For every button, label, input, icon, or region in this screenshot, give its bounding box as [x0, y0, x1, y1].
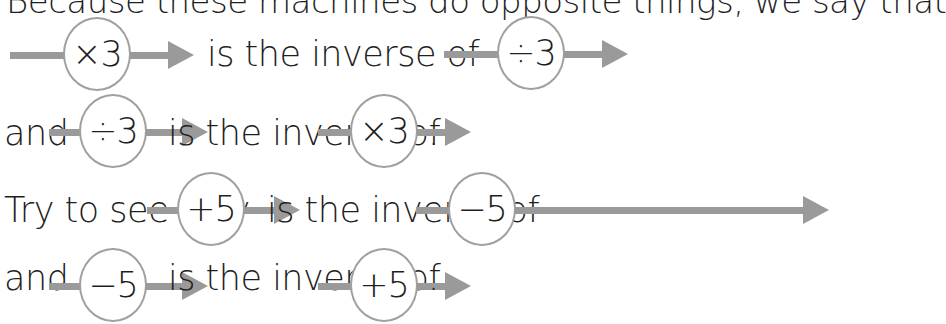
output-wire [564, 51, 604, 58]
input-wire [416, 207, 450, 214]
output-wire [130, 52, 170, 59]
input-wire [147, 207, 179, 214]
input-wire [49, 283, 81, 290]
machine-circle: ×3 [350, 94, 418, 168]
output-wire [598, 207, 803, 214]
operation-label: ×3 [359, 111, 409, 151]
period: . [428, 261, 439, 296]
operation-label: ×3 [72, 34, 122, 74]
machine-circle: +5 [177, 172, 245, 246]
function-machine-times-3: ×3 [318, 94, 498, 170]
function-machine-plus-5: +5 [318, 248, 498, 324]
operation-label: +5 [359, 265, 409, 305]
arrow-head-icon [168, 41, 194, 69]
operation-label: ÷3 [88, 111, 138, 151]
function-machine-divide-3: ÷3 [444, 16, 624, 92]
function-machine-minus-5-output [598, 172, 838, 248]
input-wire [10, 52, 64, 59]
inverse-phrase: is the inverse of [207, 37, 479, 72]
operation-label: +5 [186, 189, 236, 229]
arrow-head-icon [445, 118, 471, 146]
machine-circle: ÷3 [497, 16, 565, 90]
operation-label: −5 [88, 265, 138, 305]
machine-circle: +5 [350, 248, 418, 322]
arrow-head-icon [602, 40, 628, 68]
period: . [428, 116, 439, 151]
input-wire [444, 51, 498, 58]
operation-label: ÷3 [506, 33, 556, 73]
machine-circle: ×3 [63, 17, 131, 91]
function-machine-times-3: ×3 [10, 17, 190, 93]
input-wire [318, 129, 352, 136]
arrow-head-icon [803, 196, 829, 224]
input-wire [318, 283, 352, 290]
machine-circle: −5 [79, 248, 147, 322]
machine-circle: ÷3 [79, 94, 147, 168]
arrow-head-icon [445, 272, 471, 300]
machine-circle: −5 [448, 172, 516, 246]
operation-label: −5 [457, 189, 507, 229]
input-wire [49, 129, 81, 136]
